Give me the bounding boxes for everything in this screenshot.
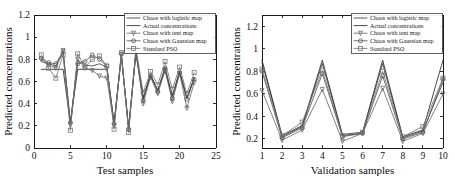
y-tick-label: 0.6 bbox=[246, 89, 258, 99]
x-tick-label: 2 bbox=[280, 151, 285, 161]
x-tick-label: 0 bbox=[32, 151, 37, 161]
x-tick-label: 8 bbox=[400, 151, 405, 161]
y-tick-label: 0.4 bbox=[246, 112, 258, 122]
y-tick-label: 1 bbox=[253, 44, 258, 54]
legend-label-tent: Chaos with tent map bbox=[143, 30, 193, 36]
y-tick-label: 0.2 bbox=[246, 134, 258, 144]
x-tick-label: 9 bbox=[421, 151, 426, 161]
x-tick-label: 1 bbox=[260, 151, 265, 161]
x-tick-label: 6 bbox=[360, 151, 365, 161]
chart-panel-validation-samples: 123456789100.20.40.60.811.2Validation sa… bbox=[228, 0, 455, 185]
series-pso bbox=[39, 46, 196, 134]
legend-label-actual: Actual concentrations bbox=[370, 23, 424, 29]
x-tick-label: 7 bbox=[380, 151, 385, 161]
x-tick-label: 10 bbox=[438, 151, 448, 161]
x-axis-title: Validation samples bbox=[311, 164, 394, 176]
y-tick-label: 0.2 bbox=[18, 121, 30, 131]
legend-label-logistic: Chaos with logistic map bbox=[370, 15, 429, 21]
series-pso bbox=[260, 67, 445, 139]
legend-label-gaussian: Chaos with Gaussian map bbox=[370, 38, 433, 44]
series-logistic bbox=[261, 62, 444, 139]
x-tick-label: 5 bbox=[68, 151, 73, 161]
legend: Chaos with logistic mapActual concentrat… bbox=[124, 13, 215, 53]
legend-label-pso: Standard PSO bbox=[370, 46, 405, 52]
series-group bbox=[39, 46, 196, 134]
x-tick-label: 3 bbox=[300, 151, 305, 161]
legend-label-tent: Chaos with tent map bbox=[370, 30, 420, 36]
legend: Chaos with logistic mapActual concentrat… bbox=[351, 13, 442, 53]
series-line-logistic bbox=[262, 62, 443, 138]
y-tick-label: 0.8 bbox=[246, 67, 258, 77]
chart-panel-test-samples: 051015202500.20.40.60.811.2Test samplesP… bbox=[0, 0, 228, 185]
series-line-pso bbox=[262, 69, 443, 137]
series-group bbox=[260, 60, 445, 144]
figure-container: 051015202500.20.40.60.811.2Test samplesP… bbox=[0, 0, 455, 185]
y-tick-label: 1.2 bbox=[18, 10, 30, 20]
y-axis-title: Predicted concentrations bbox=[230, 27, 242, 135]
x-tick-label: 4 bbox=[320, 151, 325, 161]
x-tick-label: 20 bbox=[175, 151, 185, 161]
series-gaussian bbox=[260, 69, 445, 141]
y-tick-label: 1.2 bbox=[246, 22, 258, 32]
test-samples-plot: 051015202500.20.40.60.811.2Test samplesP… bbox=[0, 0, 228, 185]
legend-label-gaussian: Chaos with Gaussian map bbox=[143, 38, 206, 44]
y-tick-label: 0.8 bbox=[18, 55, 30, 65]
y-tick-label: 0.4 bbox=[18, 99, 30, 109]
y-tick-label: 0.6 bbox=[18, 77, 30, 87]
validation-samples-plot: 123456789100.20.40.60.811.2Validation sa… bbox=[228, 0, 455, 185]
x-tick-label: 5 bbox=[340, 151, 345, 161]
x-tick-label: 15 bbox=[138, 151, 148, 161]
y-tick-label: 1 bbox=[25, 32, 30, 42]
y-tick-label: 0 bbox=[25, 143, 30, 153]
series-line-actual bbox=[262, 60, 443, 137]
x-tick-label: 10 bbox=[102, 151, 112, 161]
legend-label-pso: Standard PSO bbox=[143, 46, 178, 52]
series-actual bbox=[262, 60, 443, 137]
x-axis-title: Test samples bbox=[97, 164, 153, 176]
x-tick-label: 25 bbox=[211, 151, 221, 161]
legend-label-actual: Actual concentrations bbox=[143, 23, 197, 29]
series-line-gaussian bbox=[262, 71, 443, 139]
legend-label-logistic: Chaos with logistic map bbox=[143, 15, 202, 21]
y-axis-title: Predicted concentrations bbox=[2, 27, 14, 135]
